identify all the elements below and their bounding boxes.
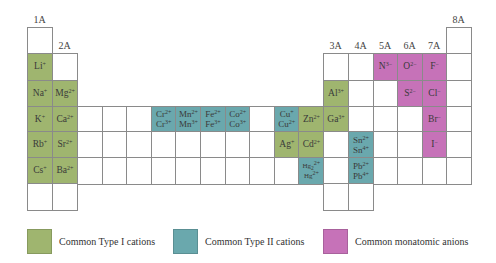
- empty-cell: [446, 80, 472, 108]
- cell-li: Li+: [27, 53, 53, 81]
- cell-i: I−: [422, 131, 448, 159]
- cell-cr: Cr2+Cr3+: [151, 106, 177, 134]
- cell-fe: Fe2+Fe3+: [200, 106, 226, 134]
- legend-label-type1: Common Type I cations: [59, 236, 155, 247]
- cell-k: K+: [27, 106, 53, 134]
- ion-label: O2−: [403, 62, 416, 72]
- cell-f: F−: [422, 53, 448, 81]
- ion-label: Pb4+: [353, 171, 369, 181]
- ion-label: Cd2+: [303, 140, 320, 150]
- empty-cell: [200, 131, 226, 159]
- legend-item-type2: Common Type II cations: [173, 229, 304, 254]
- group-label-7a: 7A: [422, 40, 447, 51]
- empty-cell: [323, 131, 349, 159]
- ion-label: Ba2+: [57, 166, 74, 176]
- empty-cell: [323, 183, 349, 211]
- cell-ca: Ca2+: [52, 106, 78, 134]
- cell-mg: Mg2+: [52, 80, 78, 108]
- empty-cell: [397, 157, 423, 185]
- empty-cell: [397, 131, 423, 159]
- cell-sr: Sr2+: [52, 131, 78, 159]
- group-label-5a: 5A: [373, 40, 398, 51]
- empty-cell: [348, 80, 374, 108]
- empty-cell: [151, 131, 177, 159]
- empty-cell: [323, 157, 349, 185]
- cell-co: Co2+Co3+: [225, 106, 251, 134]
- ion-label: Li+: [34, 62, 46, 72]
- group-label-6a: 6A: [397, 40, 422, 51]
- ion-label: Cs+: [33, 166, 46, 176]
- empty-cell: [77, 131, 103, 159]
- ion-label: Fe2+: [205, 109, 220, 119]
- ion-label: Co3+: [229, 119, 246, 129]
- ion-label: Sn4+: [353, 145, 369, 155]
- empty-cell: [175, 157, 201, 185]
- empty-cell: [52, 53, 78, 81]
- ion-label: F−: [430, 62, 439, 72]
- empty-cell: [200, 157, 226, 185]
- ion-label: Ag+: [279, 140, 294, 150]
- legend-item-anions: Common monatomic anions: [323, 229, 468, 254]
- ion-label: Zn2+: [303, 115, 320, 125]
- ion-label: Cu2+: [278, 119, 295, 129]
- cell-n: N3−: [373, 53, 399, 81]
- empty-cell: [348, 53, 374, 81]
- ion-label: Fe3+: [205, 119, 220, 129]
- empty-cell: [249, 157, 275, 185]
- ion-label: Al3+: [328, 89, 344, 99]
- empty-cell: [151, 157, 177, 185]
- empty-cell: [446, 131, 472, 159]
- cell-ba: Ba2+: [52, 157, 78, 185]
- ion-label: K+: [35, 115, 45, 125]
- empty-cell: [102, 106, 128, 134]
- empty-cell: [27, 183, 53, 211]
- empty-cell: [52, 183, 78, 211]
- cell-na: Na+: [27, 80, 53, 108]
- cell-rb: Rb+: [27, 131, 53, 159]
- empty-cell: [126, 106, 152, 134]
- empty-cell: [175, 131, 201, 159]
- ion-label: Mg2+: [55, 89, 75, 99]
- legend-swatch-type2: [173, 229, 198, 254]
- empty-cell: [373, 131, 399, 159]
- empty-cell: [77, 106, 103, 134]
- empty-cell: [126, 131, 152, 159]
- empty-cell: [397, 106, 423, 134]
- ion-label: N3−: [379, 62, 392, 72]
- cell-cs: Cs+: [27, 157, 53, 185]
- ion-label: Na+: [33, 89, 47, 99]
- cell-cd: Cd2+: [298, 131, 324, 159]
- ion-label: Br−: [428, 115, 441, 125]
- ion-label: Cr3+: [156, 119, 171, 129]
- empty-cell: [422, 157, 448, 185]
- cell-pb: Pb2+Pb4+: [348, 157, 374, 185]
- ion-label: Mn2+: [179, 109, 198, 119]
- cell-s: S2−: [397, 80, 423, 108]
- ion-label: Sn2+: [353, 135, 369, 145]
- group-label-8a: 8A: [446, 14, 471, 25]
- group-label-4a: 4A: [348, 40, 373, 51]
- empty-cell: [77, 157, 103, 185]
- empty-cell: [274, 157, 300, 185]
- empty-cell: [102, 157, 128, 185]
- group-label-1a: 1A: [27, 14, 52, 25]
- empty-cell: [446, 157, 472, 185]
- ion-label: Ga3+: [327, 115, 344, 125]
- legend-label-type2: Common Type II cations: [205, 236, 304, 247]
- empty-cell: [373, 80, 399, 108]
- cell-mn: Mn2+Mn3+: [175, 106, 201, 134]
- empty-cell: [102, 131, 128, 159]
- ion-label: Cu+: [280, 109, 294, 119]
- cell-ag: Ag+: [274, 131, 300, 159]
- empty-cell: [323, 53, 349, 81]
- empty-cell: [446, 53, 472, 81]
- cell-cu: Cu+Cu2+: [274, 106, 300, 134]
- legend-item-type1: Common Type I cations: [27, 229, 155, 254]
- cell-zn: Zn2+: [298, 106, 324, 134]
- cell-hg: Hg22+Hg2+: [298, 157, 324, 185]
- empty-cell: [249, 131, 275, 159]
- empty-cell: [446, 27, 472, 55]
- ion-label: Sr2+: [58, 140, 73, 150]
- ion-label: Rb+: [33, 140, 47, 150]
- group-label-2a: 2A: [52, 40, 77, 51]
